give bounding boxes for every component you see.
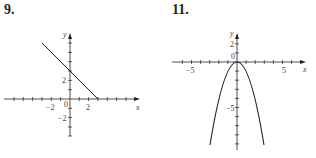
- axis-label-y: y: [62, 30, 67, 39]
- axis-label-x: x: [135, 103, 140, 112]
- tick-label-y-neg5: −5: [226, 104, 235, 113]
- tick-label-y-2: 2: [230, 40, 234, 49]
- x-axis-arrow-icon: [300, 60, 306, 64]
- tick-label-y-neg2: −2: [58, 114, 67, 123]
- graph-11-plot: −5 0 5 2 −5 x y: [158, 0, 316, 158]
- tick-label-x-neg2: −2: [46, 103, 55, 112]
- graph-panel-11: 11.: [158, 0, 316, 158]
- graph-9-plot: −2 0 2 2 −2 x y: [0, 0, 158, 158]
- tick-label-origin: 0: [231, 52, 235, 61]
- graph-panel-9: 9.: [0, 0, 158, 158]
- tick-label-x-2: 2: [86, 103, 90, 112]
- axis-label-x: x: [302, 65, 307, 74]
- tick-label-origin: 0: [64, 100, 68, 109]
- axis-label-y: y: [229, 29, 234, 38]
- tick-label-x-neg5: −5: [186, 66, 195, 75]
- y-axis-arrow-icon: [68, 33, 72, 39]
- y-axis-arrow-icon: [235, 33, 239, 39]
- x-axis-arrow-icon: [134, 97, 140, 101]
- tick-label-y-2: 2: [62, 76, 66, 85]
- tick-label-x-5: 5: [282, 66, 286, 75]
